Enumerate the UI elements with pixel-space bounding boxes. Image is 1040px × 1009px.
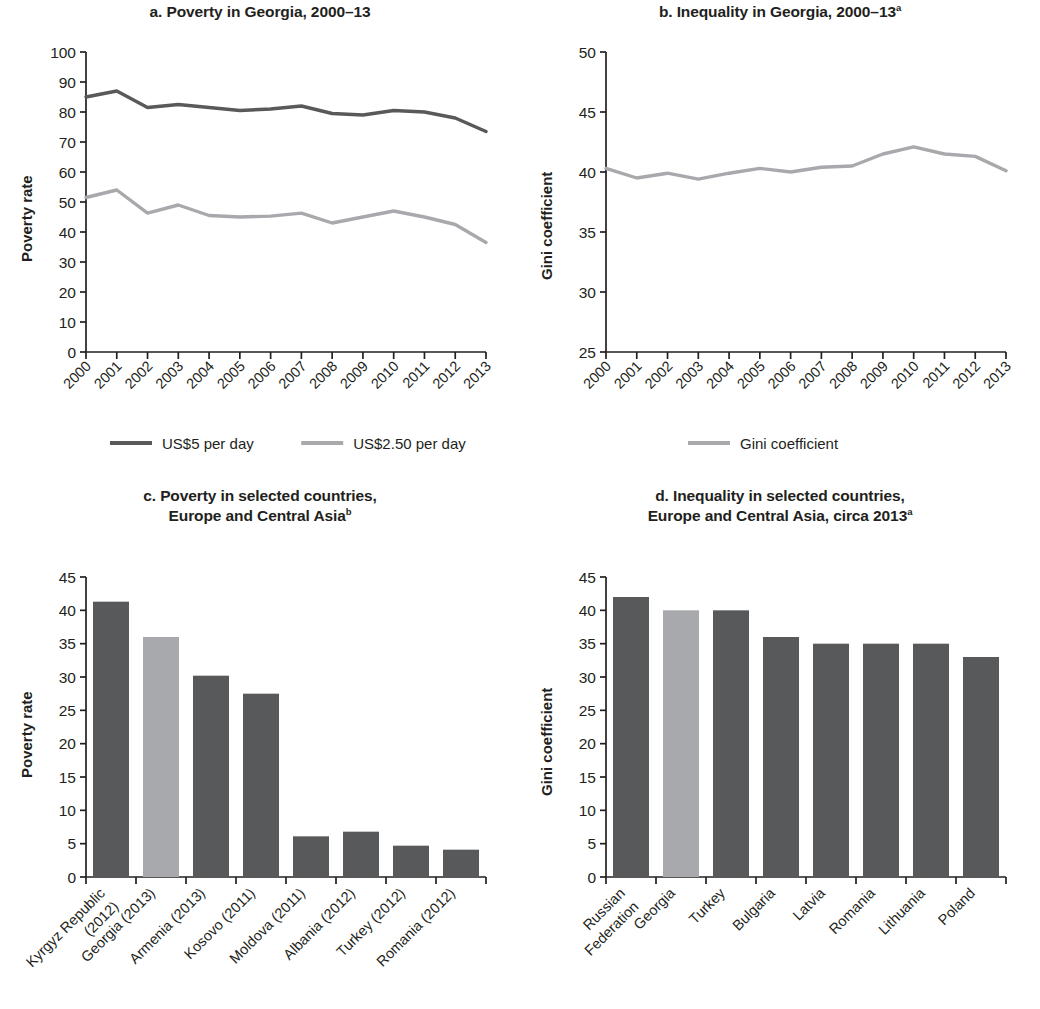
y-tick-label-40: 40 <box>579 602 597 619</box>
x-tick-label-2013: 2013 <box>460 358 494 392</box>
legend-label-1: US$2.50 per day <box>353 435 466 452</box>
y-tick-label-25: 25 <box>579 702 596 719</box>
x-tick-label-2003: 2003 <box>672 358 706 392</box>
y-tick-label-100: 100 <box>50 44 76 61</box>
y-tick-label-0: 0 <box>587 869 596 886</box>
y-tick-label-45: 45 <box>579 104 596 121</box>
y-tick-label-90: 90 <box>59 74 77 91</box>
bar-0 <box>613 597 649 877</box>
svg-b-legend: Gini coefficient <box>688 435 839 452</box>
y-tick-label-30: 30 <box>59 254 77 271</box>
bar-1 <box>663 610 699 877</box>
x-tick-label-2004: 2004 <box>183 358 217 392</box>
x-tick-label-4-0: Latvia <box>789 884 828 923</box>
y-tick-label-0: 0 <box>67 869 76 886</box>
bar-7 <box>443 850 479 877</box>
x-tick-label-2010: 2010 <box>888 358 922 392</box>
bar-1 <box>143 637 179 877</box>
x-tick-label-2007: 2007 <box>275 358 309 392</box>
bar-0 <box>93 602 129 877</box>
y-tick-label-20: 20 <box>59 284 77 301</box>
y-tick-label-0: 0 <box>67 344 76 361</box>
y-tick-label-50: 50 <box>59 194 77 211</box>
svg-a-legend: US$5 per dayUS$2.50 per day <box>110 435 466 452</box>
x-tick-label-5-0: Romania <box>826 884 879 937</box>
y-tick-label-40: 40 <box>59 602 77 619</box>
x-tick-label-2000: 2000 <box>580 358 614 392</box>
x-tick-label-2012: 2012 <box>429 358 463 392</box>
y-tick-label-50: 50 <box>579 44 597 61</box>
series-line-0 <box>86 91 486 132</box>
x-tick-label-2000: 2000 <box>60 358 94 392</box>
x-tick-label-2008: 2008 <box>826 358 860 392</box>
x-tick-label-2005: 2005 <box>734 358 768 392</box>
y-tick-label-15: 15 <box>59 769 76 786</box>
x-tick-label-group-4: Latvia <box>789 884 828 923</box>
bar-3 <box>243 694 279 877</box>
y-tick-label-70: 70 <box>59 134 77 151</box>
y-tick-label-10: 10 <box>59 314 77 331</box>
y-tick-label-10: 10 <box>59 802 77 819</box>
series-line-0 <box>606 147 1006 179</box>
bar-6 <box>393 846 429 877</box>
y-tick-label-20: 20 <box>579 735 597 752</box>
y-tick-label-45: 45 <box>579 569 596 586</box>
y-tick-label-15: 15 <box>579 769 596 786</box>
series-line-1 <box>86 190 486 243</box>
x-tick-label-2010: 2010 <box>368 358 402 392</box>
panel-c-poverty-countries: c. Poverty in selected countries,Europe … <box>0 460 520 1009</box>
x-tick-label-3-0: Bulgaria <box>729 884 779 934</box>
y-tick-label-30: 30 <box>579 669 597 686</box>
x-tick-label-2001: 2001 <box>91 358 125 392</box>
legend-label-0: US$5 per day <box>162 435 254 452</box>
bar-6 <box>913 644 949 877</box>
bar-2 <box>713 610 749 877</box>
x-tick-label-2007: 2007 <box>795 358 829 392</box>
y-tick-label-25: 25 <box>59 702 76 719</box>
x-tick-label-7-0: Poland <box>935 885 978 928</box>
panel-a-poverty-georgia: a. Poverty in Georgia, 2000–13 Poverty r… <box>0 0 520 460</box>
figure-grid: a. Poverty in Georgia, 2000–13 Poverty r… <box>0 0 1040 1009</box>
y-tick-label-40: 40 <box>59 224 77 241</box>
panel-c-plot: 051015202530354045Kyrgyz Republic(2012)G… <box>0 460 520 1009</box>
y-tick-label-30: 30 <box>579 284 597 301</box>
bar-2 <box>193 676 229 877</box>
legend-label-0: Gini coefficient <box>740 435 839 452</box>
x-tick-label-2005: 2005 <box>214 358 248 392</box>
bar-4 <box>293 836 329 877</box>
x-tick-label-group-6: Lithuania <box>875 884 929 938</box>
x-tick-label-2012: 2012 <box>949 358 983 392</box>
bar-4 <box>813 644 849 877</box>
panel-d-plot: 051015202530354045RussianFederationGeorg… <box>520 460 1040 1009</box>
x-tick-label-2006: 2006 <box>765 358 799 392</box>
y-tick-label-5: 5 <box>67 835 76 852</box>
x-tick-label-2009: 2009 <box>337 358 371 392</box>
y-tick-label-35: 35 <box>579 224 596 241</box>
x-tick-label-2013: 2013 <box>980 358 1014 392</box>
x-tick-label-2011: 2011 <box>919 358 952 391</box>
x-tick-label-group-5: Romania <box>826 884 879 937</box>
x-tick-label-2008: 2008 <box>306 358 340 392</box>
y-tick-label-35: 35 <box>579 635 596 652</box>
x-tick-label-2009: 2009 <box>857 358 891 392</box>
y-tick-label-35: 35 <box>59 635 76 652</box>
y-tick-label-25: 25 <box>579 344 596 361</box>
x-tick-label-group-7: Poland <box>935 885 978 928</box>
x-tick-label-2002: 2002 <box>122 358 156 392</box>
x-tick-label-group-2: Turkey <box>686 884 729 927</box>
x-tick-label-2011: 2011 <box>399 358 432 391</box>
y-tick-label-40: 40 <box>579 164 597 181</box>
svg-b-axes: 2530354045502000200120022003200420052006… <box>579 44 1014 392</box>
panel-b-inequality-georgia: b. Inequality in Georgia, 2000–13a Gini … <box>520 0 1040 460</box>
y-tick-label-80: 80 <box>59 104 77 121</box>
x-tick-label-2006: 2006 <box>245 358 279 392</box>
y-tick-label-10: 10 <box>579 802 597 819</box>
bar-3 <box>763 637 799 877</box>
panel-b-plot: 2530354045502000200120022003200420052006… <box>520 0 1040 460</box>
panel-d-inequality-countries: d. Inequality in selected countries,Euro… <box>520 460 1040 1009</box>
bar-5 <box>343 832 379 877</box>
panel-a-plot: 0102030405060708090100200020012002200320… <box>0 0 520 460</box>
y-tick-label-20: 20 <box>59 735 77 752</box>
bar-5 <box>863 644 899 877</box>
x-tick-label-6-0: Lithuania <box>875 884 929 938</box>
